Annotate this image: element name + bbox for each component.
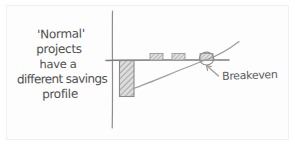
annotation-note: 'Normal' projects have a different savin… <box>9 27 113 109</box>
annotation-line-4: different savings <box>10 72 114 87</box>
annotation-line-3: have a <box>6 56 110 71</box>
breakeven-arrow-shaft <box>207 66 219 77</box>
benefit-box-2 <box>172 54 185 61</box>
investment-bar-shape <box>120 61 135 97</box>
benefit-box-1 <box>150 54 163 61</box>
annotation-line-2: projects <box>7 42 111 57</box>
annotation-line-5: profile <box>8 86 112 102</box>
benefit-boxes <box>150 54 213 61</box>
breakeven-label: Breakeven <box>222 69 278 82</box>
investment-bar <box>120 61 135 97</box>
annotation-line-1: 'Normal' <box>9 26 113 42</box>
breakeven-arrow <box>207 66 219 77</box>
slide-canvas: 'Normal' projects have a different savin… <box>0 0 295 145</box>
